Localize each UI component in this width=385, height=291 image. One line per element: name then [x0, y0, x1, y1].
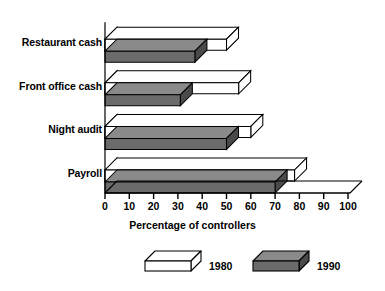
legend-swatch-1980-icon [135, 249, 203, 275]
bar-1990-2-top-face [105, 126, 239, 138]
bar-1980-3-top-face [105, 158, 307, 170]
bar-1990-2 [105, 126, 239, 149]
legend-label-1980: 1980 [209, 260, 232, 272]
bar-1980-0-top-face [105, 27, 239, 39]
x-axis-title-text: Percentage of controllers [129, 219, 256, 231]
legend-label-1990: 1990 [317, 260, 340, 272]
bar-1990-0 [105, 39, 207, 62]
bar-1980-2-top-face [105, 114, 263, 126]
bar-chart: Restaurant cash Front office cash Night … [0, 0, 385, 291]
x-axis-right-cap [350, 181, 362, 193]
bar-1990-1-top-face [105, 83, 192, 95]
plot-area [0, 0, 385, 291]
legend-item-1990: 1990 [243, 249, 311, 275]
legend-swatch-1990-icon [243, 249, 311, 275]
x-axis-title: Percentage of controllers [0, 219, 385, 231]
bar-1980-1-top-face [105, 71, 251, 83]
x-axis-tick-label-100: 100 [328, 200, 368, 212]
legend-item-1980: 1980 [135, 249, 203, 275]
bar-1990-0-top-face [105, 39, 207, 51]
bars-layer [105, 27, 307, 193]
bar-1990-3-top-face [105, 170, 287, 182]
bar-1990-0-front-face [105, 51, 195, 62]
bar-1990-1 [105, 83, 192, 106]
legend: 1980 1990 [0, 249, 385, 281]
bar-1990-1-front-face [105, 95, 180, 106]
bar-1990-2-front-face [105, 138, 227, 149]
bar-1990-3-front-face [105, 182, 275, 193]
